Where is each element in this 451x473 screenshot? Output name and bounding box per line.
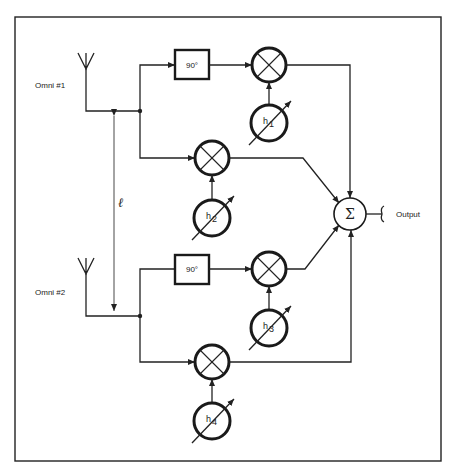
weight-h2[interactable]: h2 <box>192 196 234 240</box>
weight-h1[interactable]: h1 <box>249 101 291 145</box>
mixer-2 <box>195 141 229 175</box>
weight-h4[interactable]: h4 <box>192 399 234 443</box>
mixer-1 <box>252 48 286 82</box>
antenna-1-label: Omni #1 <box>35 81 66 90</box>
antenna-combiner-diagram: Omni #1 Omni #2 ℓ 90° h1 h2 <box>0 0 451 473</box>
antenna-1-icon <box>78 53 140 111</box>
antenna-2-label: Omni #2 <box>35 288 66 297</box>
weight-h3[interactable]: h3 <box>249 306 291 350</box>
phase-shifter-2-label: 90° <box>186 265 198 274</box>
summer: Σ <box>334 198 366 230</box>
mixer-4 <box>195 345 229 379</box>
frame-border <box>15 17 441 461</box>
svg-text:Σ: Σ <box>345 206 355 222</box>
output-label: Output <box>396 210 421 219</box>
output-terminal <box>366 206 384 222</box>
spacing-label: ℓ <box>118 195 124 210</box>
antenna-2-icon <box>78 258 140 316</box>
mixer-3 <box>252 252 286 286</box>
phase-shifter-1-label: 90° <box>186 61 198 70</box>
